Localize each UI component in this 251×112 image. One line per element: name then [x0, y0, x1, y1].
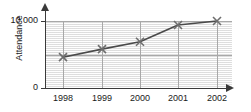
- data-series-layer: [0, 0, 251, 112]
- series-line: [63, 21, 217, 57]
- attendance-line-chart: 10 000 0 Attendance 1998 1999 2000 2001 …: [0, 0, 251, 112]
